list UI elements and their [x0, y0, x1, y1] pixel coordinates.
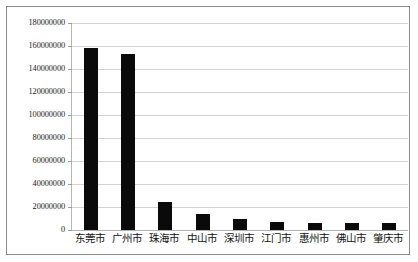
y-axis-tick-label: 140000000 [29, 65, 65, 73]
y-axis-tick-label: 60000000 [33, 157, 65, 165]
y-axis-tick-label: 0 [61, 226, 65, 234]
y-axis-tick-mark [68, 230, 72, 231]
bar-slot [259, 23, 296, 230]
bar-slot [109, 23, 146, 230]
y-axis-tick-label: 180000000 [29, 19, 65, 27]
chart-border: 0200000004000000060000000800000001000000… [6, 6, 410, 255]
bars-group [72, 23, 408, 230]
y-axis-tick-label: 40000000 [33, 180, 65, 188]
y-axis-tick-label: 100000000 [29, 111, 65, 119]
bar [121, 54, 135, 230]
bar-slot [296, 23, 333, 230]
y-axis-tick-label: 80000000 [33, 134, 65, 142]
x-axis-tick-label: 中山市 [187, 234, 217, 245]
x-axis-tick-label: 广州市 [112, 234, 142, 245]
gridline [72, 230, 408, 231]
bar [382, 223, 396, 230]
bar-slot [371, 23, 408, 230]
x-axis-tick-labels: 东莞市广州市珠海市中山市深圳市江门市惠州市佛山市肇庆市 [71, 234, 408, 252]
bar-slot [72, 23, 109, 230]
bar [345, 223, 359, 230]
bar-slot [333, 23, 370, 230]
bar [84, 48, 98, 230]
bar [196, 214, 210, 230]
y-axis-tick-label: 20000000 [33, 203, 65, 211]
chart-figure: 0200000004000000060000000800000001000000… [0, 0, 418, 262]
x-axis-tick-label: 东莞市 [75, 234, 105, 245]
x-axis-tick-label: 佛山市 [336, 234, 366, 245]
bar-slot [221, 23, 258, 230]
x-axis-tick-label: 深圳市 [224, 234, 254, 245]
x-axis-tick-label: 珠海市 [149, 234, 179, 245]
bar [270, 222, 284, 230]
x-axis-tick-label: 肇庆市 [373, 234, 403, 245]
y-axis-tick-label: 120000000 [29, 88, 65, 96]
y-axis-tick-label: 160000000 [29, 42, 65, 50]
bar [233, 219, 247, 231]
bar-slot [184, 23, 221, 230]
plot-area: 0200000004000000060000000800000001000000… [71, 23, 408, 230]
x-axis-tick-label: 惠州市 [299, 234, 329, 245]
bar [308, 223, 322, 230]
x-axis-tick-label: 江门市 [261, 234, 291, 245]
bar-slot [147, 23, 184, 230]
bar [158, 202, 172, 230]
